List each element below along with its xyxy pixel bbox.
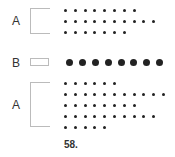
dot: [74, 82, 77, 85]
dot: [64, 115, 67, 118]
dot-row: [64, 31, 133, 34]
dot: [133, 115, 136, 118]
figure-caption: 58.: [64, 139, 78, 150]
dot: [105, 59, 112, 66]
dot: [103, 20, 106, 23]
dot-row: [64, 20, 162, 23]
dot: [133, 104, 136, 107]
dot: [66, 59, 73, 66]
dot: [123, 115, 126, 118]
dot: [93, 126, 96, 129]
dot: [64, 82, 67, 85]
dot: [84, 82, 87, 85]
dot: [123, 31, 126, 34]
dot: [113, 31, 116, 34]
dot: [64, 104, 67, 107]
dot: [118, 59, 125, 66]
dot: [133, 20, 136, 23]
dot: [79, 59, 86, 66]
dot: [113, 82, 116, 85]
dot: [92, 59, 99, 66]
dot: [74, 20, 77, 23]
dot: [123, 93, 126, 96]
bracket-a-top: [30, 8, 50, 34]
dot: [130, 59, 137, 66]
dot-row: [64, 104, 142, 107]
bracket-a-bottom: [30, 82, 50, 127]
dot: [113, 20, 116, 23]
dot: [142, 20, 145, 23]
dot: [93, 9, 96, 12]
dot-row: [64, 82, 123, 85]
dot: [74, 115, 77, 118]
dot-row: [64, 126, 113, 129]
dot: [133, 9, 136, 12]
dot: [123, 20, 126, 23]
group-label-b: B: [12, 57, 20, 69]
bracket-b: [30, 58, 49, 66]
dot: [64, 93, 67, 96]
dot: [93, 31, 96, 34]
dot: [103, 93, 106, 96]
dot: [84, 31, 87, 34]
dot: [103, 115, 106, 118]
dot-row: [64, 115, 162, 118]
dot: [113, 115, 116, 118]
dot: [142, 93, 145, 96]
dot: [64, 31, 67, 34]
dot: [64, 9, 67, 12]
dot: [84, 93, 87, 96]
dot: [103, 126, 106, 129]
dot: [93, 93, 96, 96]
dot: [103, 31, 106, 34]
dot: [142, 115, 145, 118]
dot: [74, 31, 77, 34]
dot: [103, 82, 106, 85]
dot-row: [64, 93, 172, 96]
dot: [103, 9, 106, 12]
dot: [93, 104, 96, 107]
dot: [74, 126, 77, 129]
dot: [93, 82, 96, 85]
dot: [152, 93, 155, 96]
dot: [84, 104, 87, 107]
dot-row: [66, 59, 169, 66]
dot: [162, 93, 165, 96]
dot: [113, 93, 116, 96]
dot: [93, 115, 96, 118]
dot: [84, 9, 87, 12]
dot: [123, 104, 126, 107]
dot: [133, 93, 136, 96]
group-label-a-bottom: A: [12, 99, 20, 111]
dot: [156, 59, 163, 66]
dot: [64, 20, 67, 23]
dot: [74, 9, 77, 12]
dot: [113, 104, 116, 107]
group-label-a-top: A: [12, 15, 20, 27]
dot: [113, 9, 116, 12]
dot-row: [64, 9, 142, 12]
dot: [84, 20, 87, 23]
dot: [84, 115, 87, 118]
dot: [64, 126, 67, 129]
dot: [152, 115, 155, 118]
dot: [84, 126, 87, 129]
dot: [93, 20, 96, 23]
dot: [152, 20, 155, 23]
dot: [74, 104, 77, 107]
dot: [123, 9, 126, 12]
dot: [103, 104, 106, 107]
dot: [74, 93, 77, 96]
dot: [143, 59, 150, 66]
